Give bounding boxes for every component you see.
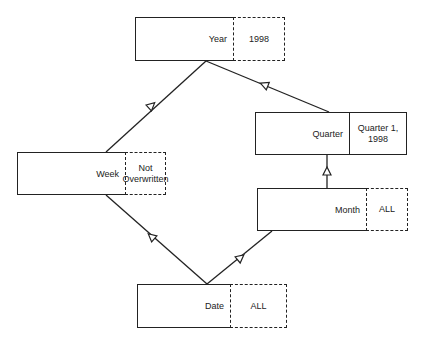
node-label: Week bbox=[17, 152, 125, 195]
node-value: ALL bbox=[230, 284, 287, 328]
node-label: Date bbox=[137, 284, 230, 328]
node-value: ALL bbox=[366, 188, 408, 231]
arrow-icon bbox=[146, 100, 157, 111]
edge-week-year bbox=[106, 61, 206, 152]
node-label: Month bbox=[257, 188, 366, 231]
node-label: Quarter bbox=[255, 112, 349, 155]
node-value: Quarter 1, 1998 bbox=[349, 112, 407, 155]
arrow-icon bbox=[146, 231, 157, 242]
edge-date-week bbox=[106, 195, 207, 284]
node-label: Year bbox=[135, 17, 233, 61]
arrow-icon bbox=[323, 167, 331, 175]
node-value: 1998 bbox=[233, 17, 285, 61]
node-value: Not Overwritten bbox=[125, 152, 166, 195]
arrow-icon bbox=[259, 79, 269, 89]
